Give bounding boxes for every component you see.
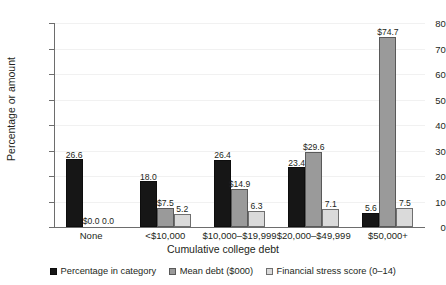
x-axis-line <box>54 227 425 228</box>
bar-group: 23.4$29.67.1 <box>288 23 339 227</box>
legend-label: Percentage in category <box>61 266 157 276</box>
legend-label: Financial stress score (0–14) <box>277 266 396 276</box>
bar: $7.5 <box>157 208 174 227</box>
bar: $14.9 <box>231 189 248 227</box>
y-axis-tick-label: 80 <box>402 18 446 29</box>
y-axis-tick-label: 30 <box>402 145 446 156</box>
bar: 7.1 <box>322 209 339 227</box>
x-axis-title: Cumulative college debt <box>0 243 446 255</box>
bar: $74.7 <box>379 37 396 227</box>
y-axis-tick <box>49 176 54 177</box>
y-axis-tick <box>49 227 54 228</box>
y-axis-tick-label: 10 <box>402 196 446 207</box>
bar-value-label: 26.4 <box>214 151 231 160</box>
plot-area: 26.6$0.00.018.0$7.55.226.4$14.96.323.4$2… <box>54 23 425 227</box>
x-axis-tick-label: $10,000–$19,999 <box>203 230 277 241</box>
bar-group: 26.4$14.96.3 <box>214 23 265 227</box>
bar-value-label: 26.6 <box>66 151 83 160</box>
y-axis-tick <box>49 49 54 50</box>
legend-item: Financial stress score (0–14) <box>266 266 396 276</box>
x-axis-tick-label: $50,000+ <box>368 230 408 241</box>
bar-value-label: 5.2 <box>176 205 188 214</box>
bar: 5.2 <box>174 214 191 227</box>
bar-value-label: $29.6 <box>303 143 325 152</box>
bar-group: 18.0$7.55.2 <box>140 23 191 227</box>
y-axis-tick-label: 40 <box>402 120 446 131</box>
bar: 26.6 <box>66 159 83 227</box>
y-axis-tick <box>49 125 54 126</box>
y-axis-tick-label: 60 <box>402 69 446 80</box>
y-axis-title: Percentage or amount <box>5 9 17 209</box>
bar-value-label: $14.9 <box>229 180 251 189</box>
bar-value-label: 23.4 <box>288 159 305 168</box>
x-axis-tick-label: <$10,000 <box>145 230 185 241</box>
bar-value-label: 0.0 <box>102 217 114 226</box>
legend-item: Percentage in category <box>50 266 156 276</box>
x-axis-tick-label: $20,000–$49,999 <box>277 230 351 241</box>
y-axis-tick <box>49 151 54 152</box>
legend-swatch-icon <box>266 268 273 275</box>
y-axis-tick <box>49 202 54 203</box>
bar: $29.6 <box>305 152 322 227</box>
y-axis-tick-label: 20 <box>402 171 446 182</box>
bar-value-label: 7.1 <box>325 200 337 209</box>
y-axis-tick-label: 0 <box>402 222 446 233</box>
x-axis-tick-label: None <box>80 230 103 241</box>
bar: 26.4 <box>214 160 231 227</box>
y-axis-tick <box>49 74 54 75</box>
y-axis-tick <box>49 23 54 24</box>
bar-group: 26.6$0.00.0 <box>66 23 117 227</box>
bar-value-label: $0.0 <box>83 217 100 226</box>
bar-value-label: 5.6 <box>365 204 377 213</box>
chart-legend: Percentage in categoryMean debt ($000)Fi… <box>0 266 446 276</box>
legend-swatch-icon <box>169 268 176 275</box>
y-axis-tick-label: 50 <box>402 94 446 105</box>
bar-value-label: $74.7 <box>377 28 399 37</box>
bar-value-label: $7.5 <box>157 199 174 208</box>
legend-item: Mean debt ($000) <box>169 266 253 276</box>
bar: 23.4 <box>288 167 305 227</box>
bar-value-label: 6.3 <box>251 202 263 211</box>
bar: 18.0 <box>140 181 157 227</box>
bar: 5.6 <box>362 213 379 227</box>
bar-value-label: 18.0 <box>140 173 157 182</box>
legend-label: Mean debt ($000) <box>180 266 253 276</box>
bar-chart: Percentage or amount 26.6$0.00.018.0$7.5… <box>0 0 446 285</box>
y-axis-tick-label: 70 <box>402 43 446 54</box>
legend-swatch-icon <box>50 268 57 275</box>
y-axis-line <box>54 23 55 227</box>
y-axis-tick <box>49 100 54 101</box>
bar: 6.3 <box>248 211 265 227</box>
